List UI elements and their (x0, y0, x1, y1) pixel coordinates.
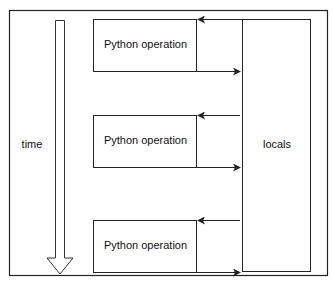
time-label: time (12, 138, 52, 150)
operation-label-2: Python operation (94, 134, 197, 146)
operation-label-1: Python operation (94, 38, 197, 50)
operation-label-3: Python operation (94, 239, 197, 251)
locals-label: locals (243, 138, 311, 150)
